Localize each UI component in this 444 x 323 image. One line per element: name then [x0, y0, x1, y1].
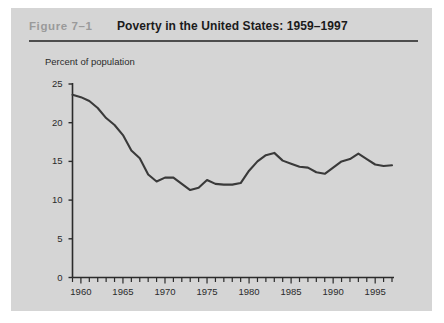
x-axis-tick-label: 1985 — [274, 286, 308, 297]
poverty-line-chart — [0, 0, 444, 323]
y-axis-tick-label: 20 — [39, 117, 63, 128]
y-axis-tick-label: 25 — [39, 78, 63, 89]
x-axis-tick-label: 1975 — [190, 286, 224, 297]
figure-root: Figure 7–1 Poverty in the United States:… — [0, 0, 444, 323]
x-axis-tick-label: 1970 — [148, 286, 182, 297]
y-axis-tick-label: 15 — [39, 155, 63, 166]
x-axis-tick-label: 1965 — [106, 286, 140, 297]
y-axis-tick-label: 0 — [39, 272, 63, 283]
y-axis-tick-label: 5 — [39, 233, 63, 244]
x-axis-tick-label: 1995 — [358, 286, 392, 297]
x-axis-tick-label: 1990 — [316, 286, 350, 297]
x-axis-tick-label: 1960 — [64, 286, 98, 297]
x-axis-tick-label: 1980 — [232, 286, 266, 297]
y-axis-tick-label: 10 — [39, 194, 63, 205]
